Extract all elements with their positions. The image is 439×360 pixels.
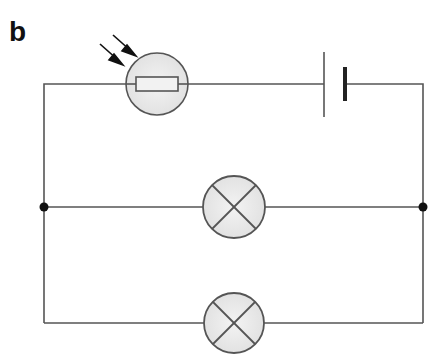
lamp-1-icon <box>203 176 265 238</box>
ldr-icon <box>126 53 188 115</box>
lamp-2-icon <box>204 293 264 353</box>
junction-left-icon <box>40 203 49 212</box>
circuit-diagram <box>0 0 439 360</box>
light-arrows-icon <box>100 35 136 65</box>
wire-top-left <box>44 84 126 323</box>
junction-right-icon <box>419 203 428 212</box>
battery-icon <box>324 52 345 117</box>
wire-top-right <box>345 84 423 323</box>
